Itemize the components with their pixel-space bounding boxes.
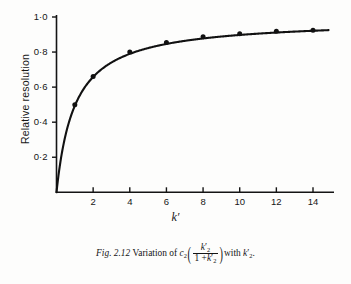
x-tick-label: 10 (229, 196, 251, 207)
x-tick-label: 14 (302, 196, 324, 207)
axis-lines (56, 15, 334, 193)
data-curve (57, 30, 329, 192)
denominator-one: 1 + (195, 253, 207, 263)
data-point (72, 102, 77, 107)
data-point (91, 74, 96, 79)
caption-figure-number: Fig. 2.12 (96, 248, 130, 258)
x-axis-title: k′ (0, 210, 351, 225)
x-tick-label: 4 (119, 196, 141, 207)
plot-area: Relative resolution 0·20·40·60·81·024681… (0, 0, 351, 232)
left-paren: ( (188, 247, 191, 261)
x-tick-label: 12 (265, 196, 287, 207)
data-point (201, 34, 206, 39)
data-point (311, 28, 316, 33)
caption-with-text: with (224, 248, 241, 258)
right-paren: ) (220, 247, 223, 261)
caption-lead-text: Variation of (133, 248, 178, 258)
data-point (274, 29, 279, 34)
y-tick-label: 0·2 (22, 151, 48, 162)
caption-fraction: k′21 +k′2 (193, 243, 219, 265)
x-tick-label: 6 (155, 196, 177, 207)
y-tick-label: 0·6 (22, 81, 48, 92)
denominator-subscript: 2 (213, 257, 216, 264)
caption-function-subscript: 2 (184, 252, 187, 259)
x-tick-label: 2 (82, 196, 104, 207)
y-tick-label: 0·8 (22, 46, 48, 57)
y-tick-label: 0·4 (22, 116, 48, 127)
numerator-subscript: 2 (207, 245, 210, 252)
figure-container: Relative resolution 0·20·40·60·81·024681… (0, 0, 351, 284)
data-point (127, 50, 132, 55)
fraction-denominator: 1 +k′2 (193, 253, 219, 264)
x-axis-title-text: k′ (172, 210, 180, 224)
fraction-numerator: k′2 (193, 243, 219, 253)
x-tick-label: 8 (192, 196, 214, 207)
figure-caption: Fig. 2.12 Variation of c2(k′21 +k′2)with… (0, 243, 351, 265)
data-point (237, 31, 242, 36)
y-tick-label: 1·0 (22, 11, 48, 22)
caption-period: . (253, 248, 255, 258)
data-point (164, 40, 169, 45)
